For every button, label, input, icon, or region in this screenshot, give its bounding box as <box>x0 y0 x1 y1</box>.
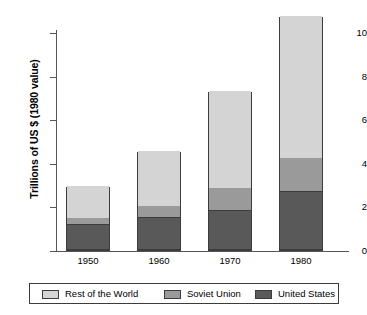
chart-container: Trillions of US $ (1980 value) 10 8 6 4 … <box>0 0 367 315</box>
x-tick-label-1960: 1960 <box>129 255 189 266</box>
bar-group-1950[interactable] <box>66 187 110 251</box>
bar-segment-1970-united-states[interactable] <box>209 211 251 250</box>
bar-segment-1980-soviet-union[interactable] <box>280 158 322 192</box>
legend-swatch-icon <box>255 290 272 299</box>
stacked-bar-1960[interactable] <box>137 152 181 251</box>
bars-layer: 1950196019701980 <box>0 0 367 272</box>
legend-swatch-icon <box>42 290 59 299</box>
bar-group-1960[interactable] <box>137 152 181 251</box>
bar-segment-1950-united-states[interactable] <box>67 225 109 250</box>
bar-segment-1970-rest-of-the-world[interactable] <box>209 91 251 188</box>
stacked-bar-1980[interactable] <box>279 17 323 251</box>
bar-segment-1950-rest-of-the-world[interactable] <box>67 186 109 219</box>
legend-item-soviet-union[interactable]: Soviet Union <box>164 287 241 301</box>
plot-area: Trillions of US $ (1980 value) 10 8 6 4 … <box>0 0 367 272</box>
bar-segment-1960-soviet-union[interactable] <box>138 206 180 218</box>
x-tick-label-1970: 1970 <box>200 255 260 266</box>
stacked-bar-1950[interactable] <box>66 187 110 251</box>
bar-segment-1950-soviet-union[interactable] <box>67 218 109 225</box>
legend-item-rest-of-the-world[interactable]: Rest of the World <box>42 287 138 301</box>
legend-item-united-states[interactable]: United States <box>255 287 335 301</box>
bar-group-1980[interactable] <box>279 17 323 251</box>
bar-segment-1960-rest-of-the-world[interactable] <box>138 151 180 207</box>
stacked-bar-1970[interactable] <box>208 92 252 251</box>
legend: Rest of the WorldSoviet UnionUnited Stat… <box>29 283 339 304</box>
bar-group-1970[interactable] <box>208 92 252 251</box>
x-tick-label-1980: 1980 <box>271 255 331 266</box>
bar-segment-1980-united-states[interactable] <box>280 192 322 250</box>
legend-item-label: Rest of the World <box>65 289 138 299</box>
x-tick-label-1950: 1950 <box>58 255 118 266</box>
legend-item-label: Soviet Union <box>187 289 241 299</box>
legend-swatch-icon <box>164 290 181 299</box>
bar-segment-1960-united-states[interactable] <box>138 218 180 250</box>
bar-segment-1970-soviet-union[interactable] <box>209 188 251 211</box>
legend-item-label: United States <box>278 289 335 299</box>
bar-segment-1980-rest-of-the-world[interactable] <box>280 16 322 159</box>
